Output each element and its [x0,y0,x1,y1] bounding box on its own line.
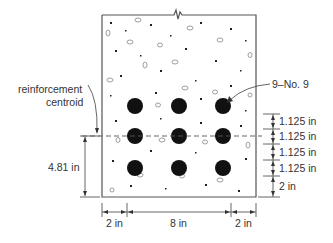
spacing-label-3: 1.125 in [279,147,316,158]
spacing-label-2: 1.125 in [279,131,316,142]
centroid-label-line2: centroid [46,97,83,108]
left-cover-label: 2 in [106,218,123,229]
centroid-height-label: 4.81 in [48,162,80,173]
rebar [171,160,187,176]
rebar-group [127,98,231,176]
centroid-leader [88,85,97,132]
spacing-dimensions [258,114,280,197]
rebar [215,160,231,176]
spacing-label-1: 1.125 in [279,116,316,127]
bars-leader [230,84,270,100]
rebar [171,98,187,114]
bottom-dimensions [102,203,256,217]
bottom-cover-label: 2 in [279,181,296,192]
spacing-label-4: 1.125 in [279,163,316,174]
rebar [127,160,143,176]
bars-label: 9–No. 9 [272,79,309,90]
bar-span-label: 8 in [170,218,187,229]
right-cover-label: 2 in [235,218,252,229]
rebar [127,98,143,114]
centroid-height-dimension [80,136,100,197]
centroid-label-line1: reinforcement [18,84,82,95]
